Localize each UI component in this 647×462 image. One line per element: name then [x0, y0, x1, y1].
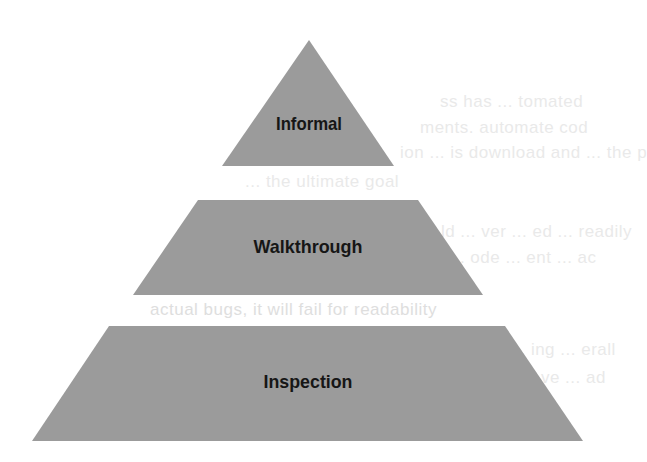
pyramid-level-informal: Informal [222, 40, 394, 166]
level-shape-triangle [222, 40, 394, 166]
level-label-informal: Informal [276, 113, 342, 134]
pyramid-level-walkthrough: Walkthrough [133, 200, 483, 295]
level-label-inspection: Inspection [264, 371, 353, 392]
level-label-walkthrough: Walkthrough [254, 236, 363, 257]
pyramid-level-inspection: Inspection [32, 326, 583, 441]
